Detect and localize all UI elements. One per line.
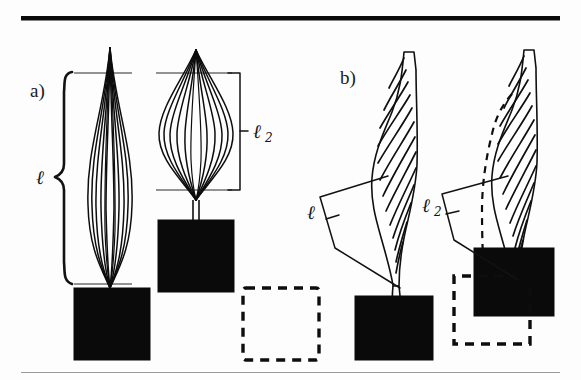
- panel-a: a) ℓ: [30, 48, 319, 360]
- fiber-bundle-compressed: [159, 50, 233, 220]
- block-solid-b-left: [355, 296, 433, 360]
- label-ell2-a-subscript: 2: [264, 131, 273, 145]
- block-solid-a-right: [158, 220, 234, 292]
- label-ell2-b-subscript: 2: [433, 205, 442, 219]
- fiber-bundle-relaxed: [88, 48, 132, 288]
- figure-root: a) ℓ: [0, 0, 581, 380]
- label-ell2-a: ℓ 2: [253, 120, 273, 145]
- block-solid-a-left: [74, 288, 150, 360]
- block-dashed-a-right: [243, 288, 319, 360]
- label-ell2-b-symbol: ℓ: [422, 194, 430, 216]
- measure-l-brace: [55, 72, 72, 284]
- top-rule: [21, 16, 560, 21]
- label-ell-b: ℓ: [307, 201, 315, 223]
- scientific-figure: a) ℓ: [0, 0, 581, 380]
- panel-a-label: a): [30, 80, 45, 102]
- block-solid-b-right: [474, 248, 554, 316]
- label-ell2-a-symbol: ℓ: [253, 120, 261, 142]
- panel-b: b): [307, 50, 554, 360]
- label-ell2-b: ℓ 2: [422, 194, 442, 219]
- measure-l2-bracket: [228, 73, 248, 190]
- panel-b-label: b): [340, 67, 356, 89]
- label-ell-a: ℓ: [36, 166, 44, 188]
